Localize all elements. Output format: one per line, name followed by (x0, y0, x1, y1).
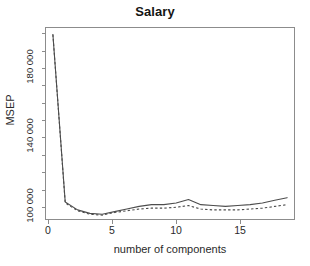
plot-frame (46, 28, 295, 220)
data-series-group (53, 34, 287, 215)
series-cv-line (53, 34, 287, 214)
series-adjcv-line (53, 34, 287, 215)
msep-plot-figure: Salary MSEP number of components 100 000… (0, 0, 310, 266)
plot-canvas (0, 0, 310, 266)
y-axis-ticks (42, 34, 46, 208)
x-axis-ticks (49, 220, 241, 224)
